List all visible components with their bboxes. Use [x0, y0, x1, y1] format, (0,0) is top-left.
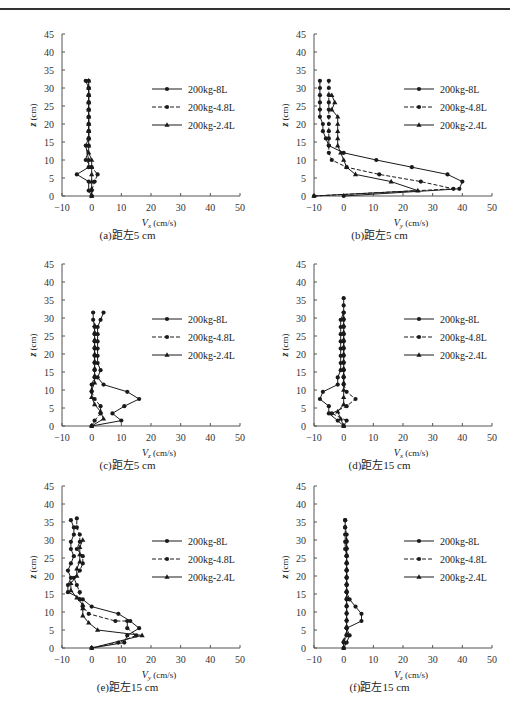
- circle-marker: [72, 554, 76, 558]
- circle-marker: [343, 518, 347, 522]
- circle-marker: [98, 404, 102, 408]
- y-tick-label: 0: [301, 421, 306, 432]
- series-200kg-8L: [90, 311, 142, 429]
- x-tick-label: 40: [205, 202, 215, 213]
- y-tick-label: 5: [301, 625, 306, 636]
- circle-marker: [98, 318, 102, 322]
- legend-label: 200kg-8L: [188, 84, 227, 95]
- circle-marker: [451, 187, 455, 191]
- triangle-marker: [92, 322, 97, 327]
- y-tick-label: 45: [44, 481, 54, 492]
- legend-item: 200kg-8L: [404, 314, 479, 325]
- chart-panel-a: 051015202530354045−1001020304050z (cm)Vx…: [0, 20, 255, 255]
- circle-marker: [417, 87, 421, 91]
- triangle-marker: [341, 322, 346, 327]
- circle-marker: [345, 419, 349, 423]
- circle-marker: [69, 547, 73, 551]
- triangle-marker: [341, 351, 346, 356]
- circle-marker: [457, 187, 461, 191]
- x-tick-label: 10: [116, 654, 126, 665]
- triangle-marker: [92, 366, 97, 371]
- legend-item: 200kg-4.8L: [404, 554, 487, 565]
- circle-marker: [165, 557, 169, 561]
- circle-marker: [460, 180, 464, 184]
- triangle-marker: [335, 128, 340, 133]
- y-tick-label: 5: [49, 173, 54, 184]
- y-tick-label: 0: [301, 643, 306, 654]
- chart-panel-c: 051015202530354045−1001020304050z (cm)Vz…: [0, 250, 255, 485]
- circle-marker: [353, 605, 357, 609]
- triangle-marker: [92, 330, 97, 335]
- y-tick-label: 30: [44, 83, 54, 94]
- y-tick-label: 45: [296, 481, 306, 492]
- circle-marker: [318, 93, 322, 97]
- circle-marker: [125, 626, 129, 630]
- x-tick-label: 40: [205, 654, 215, 665]
- x-tick-label: 50: [235, 202, 245, 213]
- circle-marker: [359, 612, 363, 616]
- y-tick-label: 35: [296, 517, 306, 528]
- y-tick-label: 20: [44, 349, 54, 360]
- triangle-marker: [353, 172, 358, 177]
- chart-d-plot: 051015202530354045−1001020304050z (cm)Vx…: [252, 250, 507, 460]
- triangle-marker: [80, 613, 85, 618]
- legend-item: 200kg-2.4L: [404, 120, 487, 131]
- circle-marker: [125, 619, 129, 623]
- triangle-marker: [92, 358, 97, 363]
- legend: 200kg-8L200kg-4.8L200kg-2.4L: [152, 536, 235, 583]
- circle-marker: [327, 129, 331, 133]
- triangle-marker: [92, 373, 97, 378]
- legend-label: 200kg-8L: [440, 536, 479, 547]
- x-tick-label: 30: [428, 654, 438, 665]
- legend-item: 200kg-2.4L: [404, 350, 487, 361]
- chart-panel-e: 051015202530354045−1001020304050z (cm)Vy…: [0, 472, 255, 707]
- circle-marker: [75, 172, 79, 176]
- x-tick-label: 0: [341, 654, 346, 665]
- triangle-marker: [344, 588, 349, 593]
- triangle-marker: [344, 566, 349, 571]
- circle-marker: [342, 311, 346, 315]
- y-tick-label: 15: [296, 367, 306, 378]
- series-200kg-4.8L: [72, 516, 138, 650]
- triangle-marker: [341, 330, 346, 335]
- y-tick-label: 5: [301, 403, 306, 414]
- circle-marker: [101, 383, 105, 387]
- legend-label: 200kg-8L: [440, 84, 479, 95]
- x-tick-label: 10: [116, 202, 126, 213]
- x-tick-label: −10: [54, 654, 70, 665]
- circle-marker: [78, 590, 82, 594]
- y-tick-label: 25: [296, 101, 306, 112]
- x-tick-label: −10: [54, 202, 70, 213]
- legend: 200kg-8L200kg-4.8L200kg-2.4L: [152, 84, 235, 131]
- y-tick-label: 40: [296, 499, 306, 510]
- x-tick-label: 50: [487, 654, 497, 665]
- circle-marker: [165, 539, 169, 543]
- y-tick-label: 0: [49, 643, 54, 654]
- x-tick-label: 30: [176, 202, 186, 213]
- y-tick-label: 5: [301, 173, 306, 184]
- triangle-marker: [335, 136, 340, 141]
- header-rule: [0, 8, 510, 10]
- triangle-marker: [89, 172, 94, 177]
- circle-marker: [327, 122, 331, 126]
- circle-marker: [91, 311, 95, 315]
- legend-label: 200kg-4.8L: [188, 332, 235, 343]
- triangle-marker: [77, 552, 82, 557]
- circle-marker: [69, 518, 73, 522]
- circle-marker: [137, 397, 141, 401]
- circle-marker: [417, 539, 421, 543]
- y-axis-label: z (cm): [279, 103, 290, 127]
- chart-f-caption: (f)距左15 cm: [252, 678, 507, 694]
- legend-item: 200kg-8L: [404, 536, 479, 547]
- circle-marker: [327, 86, 331, 90]
- y-axis-label: z (cm): [279, 555, 290, 579]
- x-tick-label: −10: [54, 432, 70, 443]
- circle-marker: [69, 540, 73, 544]
- circle-marker: [336, 383, 340, 387]
- legend: 200kg-8L200kg-4.8L200kg-2.4L: [404, 536, 487, 583]
- series-line: [314, 81, 453, 196]
- triangle-marker: [344, 552, 349, 557]
- y-tick-label: 0: [49, 421, 54, 432]
- triangle-marker: [344, 624, 349, 629]
- y-tick-label: 40: [296, 277, 306, 288]
